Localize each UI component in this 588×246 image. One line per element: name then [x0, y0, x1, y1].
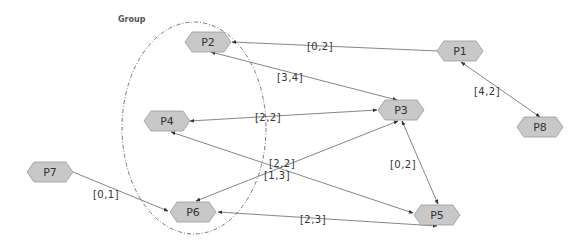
- node-label: P2: [201, 36, 215, 49]
- edge-p4-p5[interactable]: [1,3]: [171, 132, 413, 213]
- edge-line[interactable]: [196, 121, 398, 201]
- edge-line[interactable]: [190, 110, 377, 121]
- edge-label: [0,2]: [307, 41, 333, 52]
- node-p5[interactable]: P5: [414, 205, 460, 225]
- edge-label: [2,2]: [255, 112, 281, 123]
- edge-line[interactable]: [232, 42, 438, 51]
- edge-line[interactable]: [73, 172, 168, 211]
- edge-p2-p3[interactable]: [3,4]: [211, 52, 397, 100]
- node-p2[interactable]: P2: [185, 32, 231, 52]
- node-p6[interactable]: P6: [170, 202, 216, 222]
- edge-line[interactable]: [218, 212, 437, 226]
- diagram-canvas: Group [0,2][4,2][3,4][2,2][2,2][1,3][0,2…: [0, 0, 588, 246]
- node-p8[interactable]: P8: [517, 117, 563, 137]
- node-label: P6: [186, 206, 200, 219]
- group-label: Group: [118, 15, 146, 24]
- edge-line[interactable]: [171, 132, 413, 213]
- edge-label: [0,2]: [390, 159, 416, 170]
- edge-label: [1,3]: [264, 170, 290, 181]
- node-label: P8: [533, 121, 547, 134]
- node-label: P5: [430, 209, 444, 222]
- edge-p1-p8[interactable]: [4,2]: [461, 62, 540, 117]
- node-p3[interactable]: P3: [378, 100, 424, 120]
- edge-p7-p6[interactable]: [0,1]: [73, 172, 168, 211]
- edge-p1-p2[interactable]: [0,2]: [232, 41, 438, 52]
- node-label: P7: [43, 166, 57, 179]
- edge-p6-p5[interactable]: [2,3]: [218, 212, 437, 226]
- edge-line[interactable]: [211, 52, 397, 100]
- edge-label: [4,2]: [474, 86, 500, 97]
- node-label: P3: [394, 104, 408, 117]
- edge-label: [0,1]: [93, 189, 119, 200]
- edge-label: [3,4]: [277, 72, 303, 83]
- node-p1[interactable]: P1: [437, 41, 483, 61]
- edge-p3-p6[interactable]: [2,2]: [196, 121, 398, 201]
- edge-p3-p5[interactable]: [0,2]: [390, 121, 438, 204]
- edge-p3-p4[interactable]: [2,2]: [190, 110, 377, 123]
- edge-label: [2,3]: [300, 214, 326, 225]
- node-p4[interactable]: P4: [144, 111, 190, 131]
- edge-layer: [0,2][4,2][3,4][2,2][2,2][1,3][0,2][0,1]…: [73, 41, 540, 226]
- node-p7[interactable]: P7: [27, 162, 73, 182]
- edge-line[interactable]: [461, 62, 540, 117]
- node-label: P4: [160, 115, 174, 128]
- edge-label: [2,2]: [269, 158, 295, 169]
- node-label: P1: [453, 45, 467, 58]
